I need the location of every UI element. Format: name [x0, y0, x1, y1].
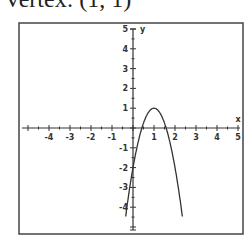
y-tick-label: -2 — [119, 164, 128, 173]
x-tick-label: 4 — [214, 133, 220, 142]
y-tick-label: -3 — [119, 183, 128, 192]
x-tick-label: -1 — [108, 133, 117, 142]
x-tick-label: -3 — [66, 133, 75, 142]
x-tick-label: 3 — [193, 133, 199, 142]
y-tick-label: 3 — [122, 65, 128, 74]
y-tick-label: -1 — [119, 144, 128, 153]
x-axis-label: x — [235, 115, 241, 124]
x-tick-label: -2 — [87, 133, 96, 142]
y-tick-label: 1 — [122, 104, 128, 113]
y-tick-label: 2 — [122, 84, 128, 93]
x-tick-label: 5 — [235, 133, 241, 142]
x-tick-label: 1 — [151, 133, 157, 142]
y-tick-label: 5 — [122, 25, 128, 34]
x-tick-label: 2 — [172, 133, 178, 142]
x-tick-label: -4 — [45, 133, 54, 142]
chart-plot: -4-3-2-11234554321-1-2-3-4xy — [0, 0, 250, 245]
y-axis-label: y — [140, 25, 146, 34]
y-tick-label: 4 — [122, 45, 128, 54]
